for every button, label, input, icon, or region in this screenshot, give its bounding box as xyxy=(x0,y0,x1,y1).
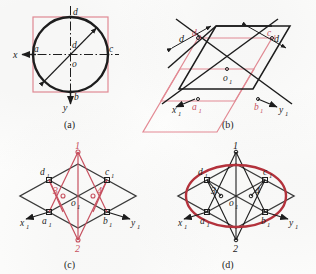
panel-d-x1-axis-label: x 1 xyxy=(177,218,187,230)
panel-c-point-a1-label: a 1 xyxy=(42,216,52,228)
panel-c-point-c1-letter: c xyxy=(105,167,110,177)
panel-d-y1-axis-label: y 1 xyxy=(288,218,298,230)
panel-c-point-b1-sub: 1 xyxy=(109,221,112,228)
panel-c-x1-letter: x xyxy=(19,218,25,228)
panel-c-x1-axis-label: x 1 xyxy=(19,218,29,230)
panel-d-center-2-label: 2 xyxy=(233,243,238,254)
panel-a-diameter-label: d xyxy=(72,40,77,50)
panel-a-center-label: o xyxy=(72,59,77,69)
panel-c-group xyxy=(20,150,136,242)
panel-b-point-b1-sub: 1 xyxy=(260,107,263,114)
panel-d-point-b1-sub: 1 xyxy=(267,221,270,228)
panel-d-x1-letter: x xyxy=(177,218,183,228)
panel-a-point-a-label: a xyxy=(34,44,39,54)
panel-d-point-b1-label: b 1 xyxy=(261,216,270,228)
panel-c-point-o1-label: o 1 xyxy=(71,198,80,210)
panel-d-x1-sub: 1 xyxy=(184,223,187,230)
panel-c-point-b1-letter: b xyxy=(103,216,108,226)
panel-c-point-d1-sub: 1 xyxy=(47,172,50,179)
panel-a-caption: (a) xyxy=(64,119,75,131)
panel-a-x-axis-label: x xyxy=(12,49,18,60)
panel-d-point-a1-label: a 1 xyxy=(200,216,210,228)
panel-a-point-d-label: d xyxy=(73,7,78,17)
panel-c-point-a1-sub: 1 xyxy=(49,221,52,228)
panel-c-y1-axis-arrow xyxy=(107,212,130,219)
panel-d-center-3-label: 3 xyxy=(210,185,216,196)
panel-b-y1-letter: y xyxy=(278,105,284,115)
panel-b-point-a1-label: a 1 xyxy=(192,102,202,114)
panel-d-point-o1-label: o 1 xyxy=(229,198,238,210)
panel-d-point-d1-sub: 1 xyxy=(205,172,208,179)
panel-d-y1-sub: 1 xyxy=(295,223,298,230)
panel-b-dimension-left-label: d xyxy=(179,33,185,44)
panel-d-point-a1-sub: 1 xyxy=(207,221,210,228)
panel-c-point-c1-sub: 1 xyxy=(111,172,114,179)
panel-c-center-1-label: 1 xyxy=(75,140,80,151)
panel-b-point-o1-sub: 1 xyxy=(229,78,232,85)
panel-d-caption: (d) xyxy=(222,259,234,271)
panel-a-point-b-label: b xyxy=(74,92,79,102)
panel-a-point-d-marker xyxy=(69,16,72,19)
panel-d-point-c1-sub: 1 xyxy=(269,172,272,179)
panel-d-point-o1-sub: 1 xyxy=(235,203,238,210)
panel-b-point-d1-letter: d xyxy=(192,28,197,38)
panel-d-point-a1-letter: a xyxy=(200,216,205,226)
panel-d-group xyxy=(178,150,294,242)
panel-b-point-d1-sub: 1 xyxy=(199,33,202,40)
panel-b-point-a1-sub: 1 xyxy=(199,107,202,114)
panel-c-point-o1-letter: o xyxy=(71,198,76,208)
panel-c-center-3-marker xyxy=(61,194,65,198)
panel-d-point-b1-letter: b xyxy=(261,216,266,226)
panel-a-group xyxy=(22,6,119,104)
panel-c-y1-sub: 1 xyxy=(137,223,140,230)
panel-b-y1-axis-label: y 1 xyxy=(278,105,288,117)
panel-b-point-b1-label: b 1 xyxy=(254,102,263,114)
panel-b-point-a1-marker xyxy=(197,98,200,101)
panel-a-point-b-marker xyxy=(69,91,72,94)
panel-d-point-o1-letter: o xyxy=(229,198,234,208)
panel-b-point-a1-letter: a xyxy=(192,102,197,112)
panel-b-x1-sub: 1 xyxy=(178,110,181,117)
panel-a-point-c-label: c xyxy=(109,44,114,54)
panel-c-center-2-label: 2 xyxy=(75,243,80,254)
panel-b-point-o1-label: o 1 xyxy=(223,73,232,85)
panel-d-y1-letter: y xyxy=(288,218,294,228)
panel-b-x1-axis-label: x 1 xyxy=(171,105,181,117)
panel-c-point-d1-label: d 1 xyxy=(40,167,50,179)
panel-c-caption: (c) xyxy=(64,259,75,271)
panel-b-point-c1-sub: 1 xyxy=(273,33,276,40)
panel-c-point-b1-label: b 1 xyxy=(103,216,112,228)
panel-c-point-o1-sub: 1 xyxy=(77,203,80,210)
panel-c-center-3-label: 3 xyxy=(52,185,58,196)
panel-c-point-c1-label: c 1 xyxy=(105,167,114,179)
technical-figure-svg: x y a c d b d o (a) d d d 1 c 1 a 1 b 1 … xyxy=(0,0,316,274)
panel-b-diagonal-right-up xyxy=(162,19,278,104)
panel-b-y1-sub: 1 xyxy=(285,110,288,117)
panel-b-x1-letter: x xyxy=(171,105,177,115)
panel-d-center-4-label: 4 xyxy=(255,185,260,196)
panel-c-x1-sub: 1 xyxy=(26,223,29,230)
figure-root: x y a c d b d o (a) d d d 1 c 1 a 1 b 1 … xyxy=(0,0,316,274)
panel-b-point-b1-letter: b xyxy=(254,102,259,112)
panel-c-point-d1-letter: d xyxy=(40,167,45,177)
panel-c-point-a1-letter: a xyxy=(42,216,47,226)
panel-c-y1-axis-label: y 1 xyxy=(130,218,140,230)
panel-a-y-axis-label: y xyxy=(62,102,68,113)
panel-c-center-4-label: 4 xyxy=(97,185,102,196)
panel-d-center-1-label: 1 xyxy=(233,140,238,151)
panel-b-caption: (b) xyxy=(222,119,234,131)
panel-c-center-4-marker xyxy=(91,194,95,198)
panel-c-y1-letter: y xyxy=(130,218,136,228)
panel-d-point-d1-letter: d xyxy=(198,167,203,177)
panel-b-point-o1-letter: o xyxy=(223,73,228,83)
